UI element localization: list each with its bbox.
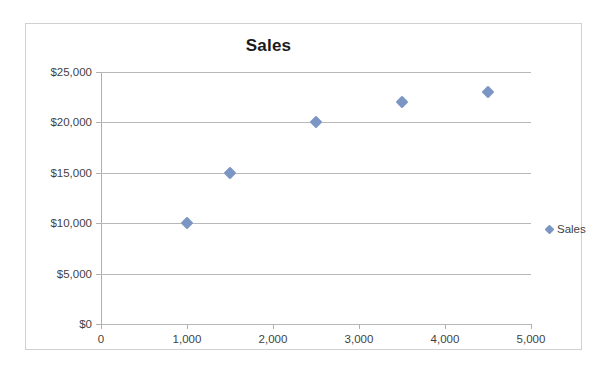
x-axis-label: 1,000	[173, 333, 202, 345]
y-axis-tick	[96, 274, 101, 275]
plot-area[interactable]: $0$5,000$10,000$15,000$20,000$25,00001,0…	[101, 72, 531, 324]
x-axis-label: 2,000	[259, 333, 288, 345]
gridline-horizontal	[101, 274, 531, 275]
y-axis-tick	[96, 223, 101, 224]
y-axis-tick	[96, 122, 101, 123]
y-axis-tick	[96, 173, 101, 174]
y-axis-tick	[96, 72, 101, 73]
x-axis-tick	[273, 324, 274, 329]
chart-frame[interactable]: Sales $0$5,000$10,000$15,000$20,000$25,0…	[25, 23, 582, 350]
x-axis-label: 4,000	[431, 333, 460, 345]
y-axis-label: $5,000	[57, 268, 92, 280]
x-axis-tick	[531, 324, 532, 329]
gridline-horizontal	[101, 324, 531, 325]
y-axis-label: $0	[79, 318, 92, 330]
y-axis-label: $15,000	[50, 167, 92, 179]
gridline-horizontal	[101, 223, 531, 224]
y-axis-label: $20,000	[50, 116, 92, 128]
x-axis-tick	[187, 324, 188, 329]
x-axis-label: 0	[98, 333, 104, 345]
data-point-marker[interactable]	[310, 116, 323, 129]
y-axis-line	[101, 72, 102, 324]
chart-title: Sales	[26, 36, 581, 56]
gridline-horizontal	[101, 72, 531, 73]
x-axis-label: 3,000	[345, 333, 374, 345]
data-point-marker[interactable]	[181, 217, 194, 230]
data-point-marker[interactable]	[396, 96, 409, 109]
chart-legend[interactable]: Sales	[546, 223, 586, 235]
y-axis-label: $25,000	[50, 66, 92, 78]
legend-marker-diamond-icon	[545, 224, 555, 234]
data-point-marker[interactable]	[482, 86, 495, 99]
x-axis-label: 5,000	[517, 333, 546, 345]
x-axis-tick	[359, 324, 360, 329]
y-axis-label: $10,000	[50, 217, 92, 229]
chart-screenshot: Sales $0$5,000$10,000$15,000$20,000$25,0…	[0, 0, 609, 376]
gridline-horizontal	[101, 173, 531, 174]
x-axis-tick	[445, 324, 446, 329]
legend-label-sales: Sales	[557, 223, 586, 235]
data-point-marker[interactable]	[224, 166, 237, 179]
x-axis-tick	[101, 324, 102, 329]
chart-title-text: Sales	[246, 36, 361, 55]
